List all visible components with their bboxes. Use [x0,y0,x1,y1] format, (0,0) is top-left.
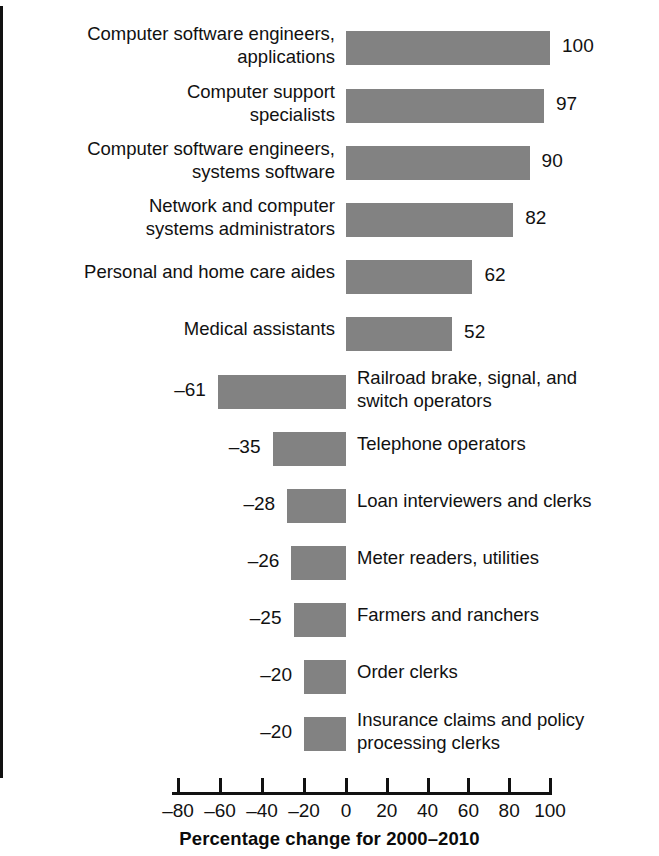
category-label: Order clerks [357,660,458,683]
value-label: –26 [0,550,279,572]
bar [346,146,530,180]
axis-tick [219,778,222,795]
value-label: 97 [556,93,577,115]
bar [346,260,472,294]
value-label: 62 [484,264,505,286]
category-label: Computer software engineers, application… [0,22,335,68]
value-label: –28 [0,493,275,515]
axis-tick [508,778,511,795]
axis-tick [177,778,180,795]
category-label: Computer support specialists [0,80,335,126]
value-label: 90 [542,150,563,172]
bar [287,489,346,523]
category-label: Telephone operators [357,432,526,455]
axis-tick [345,778,348,795]
category-label: Loan interviewers and clerks [357,489,591,512]
axis-tick [386,778,389,795]
bar [346,31,550,65]
category-label: Farmers and ranchers [357,603,539,626]
bar [304,717,346,751]
axis-tick [427,778,430,795]
bar [291,546,346,580]
x-axis-line [172,792,551,795]
category-label: Personal and home care aides [0,260,335,283]
value-label: –25 [0,607,282,629]
category-label: Network and computer systems administrat… [0,194,335,240]
value-label: 100 [562,35,594,57]
bar [273,432,347,466]
bar [294,603,347,637]
axis-tick [549,778,552,795]
x-axis-title: Percentage change for 2000–2010 [0,828,659,850]
category-label: Meter readers, utilities [357,546,539,569]
plot-area: Computer software engineers, application… [0,0,659,760]
category-label: Insurance claims and policy processing c… [357,708,584,754]
category-label: Medical assistants [0,317,335,340]
bar [346,203,513,237]
axis-tick [467,778,470,795]
value-label: 52 [464,321,485,343]
axis-tick-label: 100 [520,800,580,822]
value-label: 82 [525,207,546,229]
bar [304,660,346,694]
category-label: Computer software engineers, systems sof… [0,137,335,183]
value-label: –35 [0,436,261,458]
bar [346,317,452,351]
chart-page: Computer software engineers, application… [0,0,659,856]
bar [218,375,346,409]
value-label: –61 [0,379,206,401]
axis-tick [303,778,306,795]
value-label: –20 [0,664,292,686]
bar [346,89,544,123]
x-axis: Percentage change for 2000–2010 –80–60–4… [0,772,659,856]
category-label: Railroad brake, signal, and switch opera… [357,366,577,412]
value-label: –20 [0,721,292,743]
axis-tick [261,778,264,795]
